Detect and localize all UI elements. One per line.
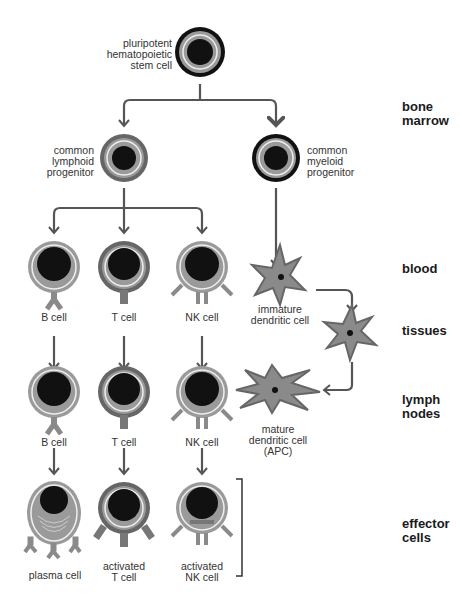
label-myeloid-progenitor: common myeloid progenitor [307, 145, 387, 178]
mature-dendritic-cell [236, 365, 320, 413]
zone-bone-marrow: bone marrow [402, 100, 449, 128]
label-lymphoid-progenitor: common lymphoid progenitor [30, 145, 94, 178]
b-cell-blood [28, 241, 80, 309]
nk-cell-blood [172, 241, 232, 304]
tissue-dendritic-cell [324, 305, 376, 360]
t-cell-lymph [98, 366, 150, 429]
nk-cell-lymph [172, 366, 232, 429]
lineage-diagram [0, 0, 462, 600]
immature-dendritic-cell [252, 245, 305, 305]
label-b-cell-lymph: B cell [24, 437, 84, 448]
zone-effector-cells: effector cells [402, 517, 450, 545]
label-b-cell-blood: B cell [24, 312, 84, 323]
myeloid-progenitor [252, 134, 300, 182]
b-cell-lymph [28, 366, 80, 434]
zone-blood: blood [402, 262, 437, 276]
label-plasma-cell: plasma cell [20, 570, 90, 581]
label-mature-dc: mature dendritic cell (APC) [238, 424, 318, 457]
label-nk-cell-blood: NK cell [172, 312, 232, 323]
label-t-cell-lymph: T cell [94, 437, 154, 448]
zone-lymph-nodes: lymph nodes [402, 393, 440, 421]
effector-bracket [236, 479, 242, 576]
label-stem-cell: pluripotent hematopoietic stem cell [100, 38, 172, 71]
label-t-cell-blood: T cell [94, 312, 154, 323]
zone-tissues: tissues [402, 324, 447, 338]
label-activated-t-cell: activated T cell [94, 561, 154, 583]
plasma-cell [25, 481, 81, 558]
activated-t-cell [96, 482, 152, 547]
label-nk-cell-lymph: NK cell [172, 437, 232, 448]
lymphoid-progenitor [100, 134, 148, 182]
t-cell-blood [98, 241, 150, 304]
label-activated-nk-cell: activated NK cell [172, 561, 232, 583]
label-immature-dc: immature dendritic cell [240, 304, 320, 326]
activated-nk-cell [172, 482, 232, 545]
stem-cell [175, 27, 225, 77]
